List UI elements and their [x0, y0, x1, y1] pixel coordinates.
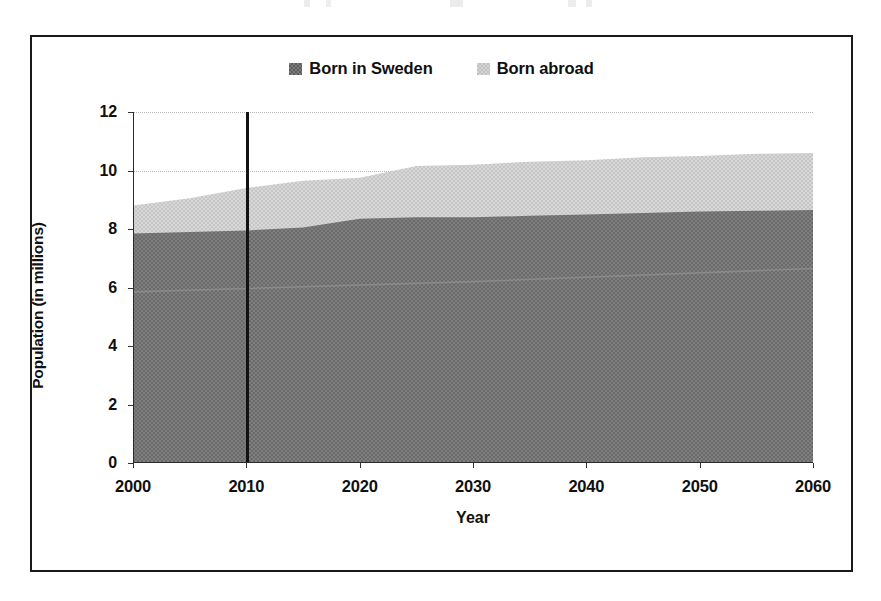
scan-artifact-top-text: [300, 0, 660, 7]
y-tick-label-12: 12: [99, 103, 126, 121]
stacked-area-series: [133, 112, 813, 463]
x-tick-mark-2040: [586, 463, 587, 468]
area-born-in-sweden: [133, 210, 813, 463]
legend-swatch-born-in-sweden-icon: [289, 63, 302, 75]
current-year-marker-line: [246, 112, 249, 463]
plot-area: 024681012 2000201020202030204020502060 Y…: [133, 112, 813, 463]
x-tick-label-2050: 2050: [682, 477, 718, 496]
y-tick-label-6: 6: [108, 279, 126, 297]
chart-figure-frame: Born in Sweden Born abroad Population (i…: [30, 35, 853, 572]
y-tick-label-8: 8: [108, 220, 126, 238]
x-tick-mark-2050: [700, 463, 701, 468]
y-tick-mark-10: [128, 171, 133, 172]
x-tick-label-2030: 2030: [455, 477, 491, 496]
y-tick-mark-4: [128, 346, 133, 347]
x-tick-label-2040: 2040: [568, 477, 604, 496]
y-tick-label-4: 4: [108, 337, 126, 355]
y-tick-label-10: 10: [99, 162, 126, 180]
x-tick-label-2000: 2000: [115, 477, 151, 496]
y-axis-line: [133, 112, 134, 463]
y-tick-mark-6: [128, 288, 133, 289]
x-tick-mark-2060: [813, 463, 814, 468]
y-tick-mark-8: [128, 229, 133, 230]
plot-clip: [133, 112, 813, 463]
y-tick-label-0: 0: [108, 454, 126, 472]
y-tick-mark-12: [128, 112, 133, 113]
chart-legend: Born in Sweden Born abroad: [32, 59, 851, 78]
y-axis-title: Population (in millions): [25, 37, 51, 574]
x-tick-label-2010: 2010: [228, 477, 264, 496]
x-tick-mark-2030: [473, 463, 474, 468]
x-tick-label-2020: 2020: [342, 477, 378, 496]
legend-label-born-abroad: Born abroad: [497, 59, 594, 78]
legend-label-born-in-sweden: Born in Sweden: [309, 59, 432, 78]
x-tick-label-2060: 2060: [795, 477, 831, 496]
legend-item-born-in-sweden: Born in Sweden: [289, 59, 432, 78]
x-axis-title: Year: [133, 509, 813, 527]
x-tick-mark-2010: [246, 463, 247, 468]
x-tick-mark-2020: [360, 463, 361, 468]
x-tick-mark-2000: [133, 463, 134, 468]
y-tick-mark-2: [128, 405, 133, 406]
legend-item-born-abroad: Born abroad: [477, 59, 594, 78]
legend-swatch-born-abroad-icon: [477, 63, 490, 75]
y-tick-label-2: 2: [108, 396, 126, 414]
